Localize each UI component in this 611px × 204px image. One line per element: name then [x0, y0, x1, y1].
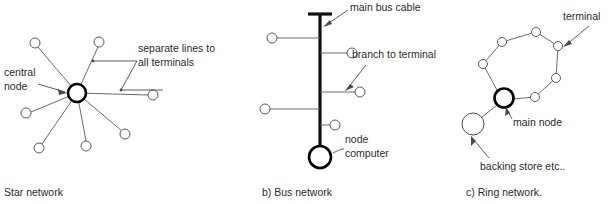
ring-backing-store-link [481, 105, 497, 118]
arrow-head-icon [58, 89, 67, 95]
ring-network-panel: terminal main node backing store etc.. c… [462, 10, 600, 198]
ring-network-caption: c) Ring network. [466, 186, 542, 198]
backing-store-leader [471, 136, 489, 158]
star-central-node-label-line1: central [4, 66, 36, 78]
star-terminal-node [81, 141, 91, 151]
ring-terminal-node [554, 42, 563, 51]
star-terminal-node [120, 129, 130, 139]
ring-link [502, 32, 536, 42]
bus-network-panel: main bus cable branch to terminal node c… [260, 1, 436, 198]
ring-terminal-node [531, 93, 540, 102]
bus-branch-label: branch to terminal [352, 48, 436, 60]
bus-node-computer-label-line1: node [345, 133, 369, 145]
bus-node-computer-label-line2: computer [345, 147, 389, 159]
main-node-leader [505, 107, 512, 119]
ring-terminal-node [532, 28, 541, 37]
leader-line [333, 149, 344, 153]
bus-terminal-node [355, 87, 365, 97]
star-separate-lines-label-line2: all terminals [138, 56, 194, 68]
leader-line [473, 139, 489, 158]
ring-main-node-label: main node [513, 116, 562, 128]
terminal-leader [563, 26, 589, 47]
ring-links [483, 32, 558, 99]
star-terminal-node [30, 38, 40, 48]
star-central-node [68, 84, 86, 102]
bus-terminal-node [260, 104, 270, 114]
bus-main-cable-label: main bus cable [350, 1, 421, 13]
network-topology-figure: central node separate lines to all termi… [0, 0, 611, 204]
branch-to-terminal-leader [345, 65, 366, 91]
figure-canvas: central node separate lines to all termi… [0, 0, 611, 204]
bracket-tip-dot-icon [92, 60, 95, 63]
star-terminal-node [148, 90, 158, 100]
arrow-head-icon [345, 84, 354, 91]
bracket-right [121, 61, 137, 90]
star-central-node-label-line2: node [4, 80, 28, 92]
star-spoke [77, 93, 148, 95]
bus-node-computer [309, 146, 331, 168]
central-node-leader [38, 84, 67, 95]
star-network-caption: Star network [4, 186, 64, 198]
bus-terminal-node [267, 33, 277, 43]
star-terminal-node [21, 108, 31, 118]
ring-terminal-nodes [479, 28, 563, 102]
ring-terminal-node [552, 74, 561, 83]
bus-network-caption: b) Bus network [262, 186, 333, 198]
ring-main-node [495, 89, 514, 108]
star-terminal-node [34, 143, 44, 153]
ring-terminal-node [498, 38, 507, 47]
ring-terminal-node [479, 60, 488, 69]
arrow-head-icon [323, 20, 332, 27]
star-separate-lines-label-line1: separate lines to [138, 42, 215, 54]
ring-terminal-label: terminal [563, 10, 600, 22]
star-network-panel: central node separate lines to all termi… [4, 37, 215, 198]
bracket-tip-dot-icon [120, 89, 123, 92]
ring-backing-store-node [462, 113, 484, 135]
arrow-head-icon [471, 136, 476, 146]
node-computer-leader [333, 149, 344, 153]
bus-terminal-node [330, 120, 340, 130]
ring-backing-store-label: backing store etc.. [480, 160, 565, 172]
star-terminal-node [94, 37, 104, 47]
bus-branches [260, 33, 365, 130]
